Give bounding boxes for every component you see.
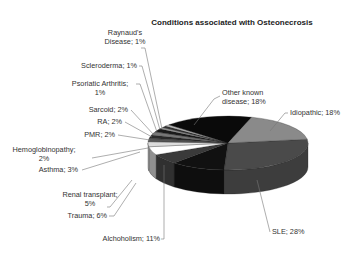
data-label-sarcoid: Sarcoid; 2% (89, 105, 129, 114)
pie-top (148, 116, 308, 170)
chart-title: Conditions associated with Osteonecrosis (151, 18, 313, 27)
leader-line-ra (125, 122, 152, 137)
leader-line-scleroderma (139, 66, 160, 130)
data-label-renal-transplant: Renal transplant;5% (62, 190, 117, 208)
data-label-psoriatic-arthritis: Psoriatic Arthritis;1% (72, 79, 128, 97)
leader-line-hemoglobinopathy (92, 148, 148, 158)
pie-side-asthma (148, 143, 149, 171)
data-label-hemoglobinopathy: Hemoglobinopathy;2% (13, 145, 76, 163)
data-label-alchoholism: Alchoholism; 11% (103, 234, 161, 243)
data-label-sle: SLE; 28% (272, 227, 305, 236)
data-label-idiopathic: Idiopathic; 18% (290, 108, 340, 117)
data-label-pmr: PMR; 2% (84, 130, 115, 139)
data-label-other-known-disease: Other knowndisease; 18% (222, 88, 266, 106)
leader-line-trauma (109, 183, 136, 216)
pie-chart: Conditions associated with Osteonecrosis… (0, 0, 360, 253)
data-label-trauma: Trauma; 6% (68, 211, 108, 220)
data-label-scleroderma: Scleroderma; 1% (81, 61, 137, 70)
data-label-ra: RA; 2% (97, 117, 122, 126)
data-label-asthma: Asthma; 3% (39, 165, 79, 174)
data-label-raynaud-s-disease: Raynaud'sDisease; 1% (105, 28, 146, 46)
leader-line-pmr (118, 135, 150, 140)
